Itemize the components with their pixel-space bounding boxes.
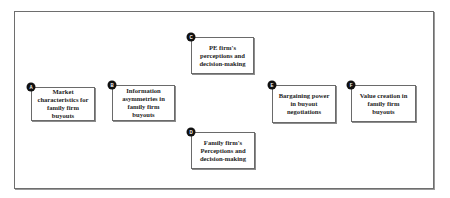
node-f: Value creation in family firm buyouts [351,85,416,122]
node-a: Market characteristics for family firm b… [31,87,95,121]
node-c: PE firm's perceptions and decision-makin… [191,37,254,74]
badge-e-icon: E [268,81,277,90]
node-b-label: Information asymmetries in family firm b… [117,87,170,119]
badge-a-icon: A [27,83,36,92]
badge-f-icon: F [347,81,356,90]
node-e: Bargaining power in buyout negotiations [272,85,336,123]
node-f-label: Value creation in family firm buyouts [356,92,411,116]
node-e-label: Bargaining power in buyout negotiations [277,92,331,116]
badge-d-icon: D [187,128,196,137]
node-b: Information asymmetries in family firm b… [112,85,175,121]
node-d-label: Family firm's Perceptions and decision-m… [196,139,250,163]
node-a-label: Market characteristics for family firm b… [36,88,90,120]
node-d: Family firm's Perceptions and decision-m… [191,132,255,169]
badge-b-icon: B [108,81,117,90]
badge-c-icon: C [187,33,196,42]
node-c-label: PE firm's perceptions and decision-makin… [196,44,249,68]
